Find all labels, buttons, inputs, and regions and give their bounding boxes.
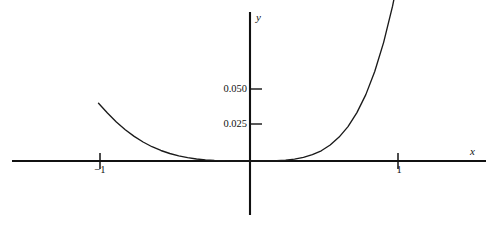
- y-axis-ticks: [250, 89, 262, 124]
- y-tick-label-050: 0.050: [217, 84, 247, 95]
- axes-group: [12, 12, 486, 215]
- y-tick-label-025: 0.025: [217, 119, 247, 130]
- y-axis-label: y: [256, 12, 261, 23]
- plot-canvas: [0, 0, 498, 226]
- x-tick-label-positive-1: 1: [392, 165, 406, 176]
- function-plot-figure: 0.050 0.025 −1 1 x y: [0, 0, 498, 226]
- x-axis-label: x: [470, 146, 475, 157]
- x-tick-label-negative-1: −1: [92, 165, 108, 176]
